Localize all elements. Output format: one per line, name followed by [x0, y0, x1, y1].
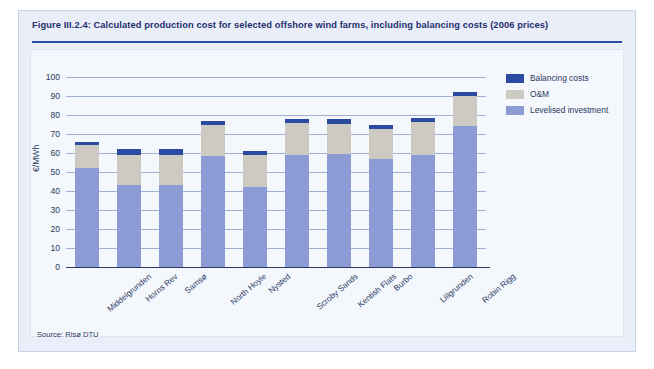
bar-segment: [159, 185, 183, 267]
plot-area: 0102030405060708090100: [66, 77, 486, 267]
bar-stack: [285, 119, 309, 267]
bar-segment: [117, 185, 141, 267]
gridline: 100: [66, 77, 486, 78]
y-axis-title: €/MWh: [31, 145, 41, 172]
bar-segment: [285, 155, 309, 267]
legend-item[interactable]: Levelised investment: [506, 104, 608, 116]
bar-segment: [369, 129, 393, 158]
bar-segment: [243, 187, 267, 267]
figure-page: Figure III.2.4: Calculated production co…: [0, 0, 654, 369]
bar-segment: [453, 96, 477, 126]
figure-title-bar: Figure III.2.4: Calculated production co…: [32, 20, 622, 30]
title-divider: [32, 41, 622, 43]
bar-stack: [75, 142, 99, 267]
legend-swatch: [506, 74, 524, 83]
bar-segment: [411, 155, 435, 267]
bar-stack: [453, 92, 477, 267]
legend-swatch: [506, 90, 524, 99]
gridline: 80: [66, 115, 486, 116]
bar-segment: [285, 123, 309, 155]
source-note: Source: Risø DTU: [37, 330, 99, 339]
legend-item[interactable]: Balancing costs: [506, 72, 608, 84]
y-axis-tick-label: 0: [55, 262, 60, 272]
bar-segment: [75, 168, 99, 267]
bar-stack: [201, 121, 225, 267]
bar-stack: [159, 149, 183, 267]
y-axis-tick-label: 80: [50, 110, 60, 120]
bar-stack: [369, 125, 393, 267]
bar-segment: [243, 155, 267, 187]
bar-segment: [159, 155, 183, 185]
gridline: 90: [66, 96, 486, 97]
bar-segment: [453, 126, 477, 267]
y-axis-tick-label: 40: [50, 186, 60, 196]
page-title: Figure III.2.4: Calculated production co…: [32, 20, 622, 30]
legend-label: Balancing costs: [530, 73, 589, 83]
legend-swatch: [506, 106, 524, 115]
bar-segment: [201, 156, 225, 267]
bar-segment: [327, 124, 351, 154]
bar-stack: [411, 118, 435, 267]
y-axis-tick-label: 100: [46, 72, 60, 82]
bar-segment: [411, 122, 435, 155]
y-axis-tick-label: 60: [50, 148, 60, 158]
bar-stack: [327, 119, 351, 267]
x-axis-line: [66, 267, 490, 268]
legend-label: Levelised investment: [530, 105, 608, 115]
bar-segment: [327, 154, 351, 267]
y-axis-tick-label: 90: [50, 91, 60, 101]
y-axis-tick-label: 30: [50, 205, 60, 215]
bar-segment: [201, 125, 225, 156]
bar-stack: [117, 149, 141, 267]
y-axis-tick-label: 10: [50, 243, 60, 253]
bar-segment: [369, 159, 393, 267]
bar-stack: [243, 151, 267, 267]
bar-segment: [75, 145, 99, 168]
bar-segment: [117, 155, 141, 185]
chart-legend: Balancing costsO&MLevelised investment: [506, 72, 608, 120]
y-axis-tick-label: 70: [50, 129, 60, 139]
legend-item[interactable]: O&M: [506, 88, 608, 100]
y-axis-tick-label: 50: [50, 167, 60, 177]
legend-label: O&M: [530, 89, 549, 99]
y-axis-tick-label: 20: [50, 224, 60, 234]
